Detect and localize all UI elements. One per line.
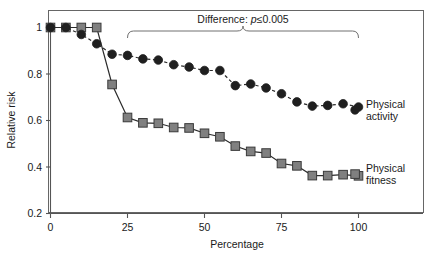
legend-activity-line2: activity: [366, 110, 399, 122]
activity-data-point: [92, 39, 101, 48]
chart-canvas: 0.2 0.4 0.6 0.8 1 0 25 50 75 100 Percent…: [0, 0, 438, 265]
x-tick-label-4: 100: [350, 221, 368, 233]
fitness-data-point: [339, 170, 348, 179]
fitness-data-point: [123, 113, 132, 122]
activity-data-point: [108, 50, 117, 59]
difference-annotation: Difference: p≤0.005: [197, 13, 289, 25]
legend-square-icon: [351, 170, 360, 179]
activity-data-point: [323, 101, 332, 110]
y-tick-label-1: 0.4: [27, 161, 42, 173]
legend-activity-line1: Physical: [366, 98, 405, 110]
x-axis-ticks: [51, 214, 359, 219]
fitness-data-point: [108, 80, 117, 89]
activity-data-point: [246, 80, 255, 89]
fitness-data-point: [293, 162, 302, 171]
fitness-data-point: [169, 123, 178, 132]
legend-fitness-line1: Physical: [366, 162, 405, 174]
fitness-data-point: [262, 149, 271, 158]
difference-bracket-icon: [128, 26, 359, 38]
activity-data-point: [185, 63, 194, 72]
x-axis-title: Percentage: [210, 238, 264, 250]
x-tick-label-1: 25: [122, 221, 134, 233]
fitness-data-point: [231, 142, 240, 151]
activity-data-point: [216, 66, 225, 75]
fitness-data-point: [308, 171, 317, 180]
activity-data-point: [277, 89, 286, 98]
legend-physical-fitness: Physical fitness: [351, 162, 405, 186]
fitness-data-point: [323, 171, 332, 180]
x-tick-label-3: 75: [276, 221, 288, 233]
fitness-data-point: [92, 23, 101, 32]
activity-markers: [46, 23, 363, 111]
legend-physical-activity: Physical activity: [351, 98, 405, 122]
activity-data-point: [262, 84, 271, 93]
fitness-data-point: [154, 119, 163, 128]
fitness-data-point: [139, 119, 148, 128]
y-tick-label-4: 1: [36, 21, 42, 33]
activity-data-point: [339, 99, 348, 108]
y-axis-tick-labels: 0.2 0.4 0.6 0.8 1: [27, 21, 42, 219]
x-tick-label-0: 0: [48, 221, 54, 233]
activity-data-point: [231, 81, 240, 90]
activity-data-point: [46, 23, 55, 32]
activity-data-point: [169, 60, 178, 69]
activity-data-point: [139, 55, 148, 64]
legend-fitness-line2: fitness: [366, 174, 396, 186]
x-axis-tick-labels: 0 25 50 75 100: [48, 221, 368, 233]
fitness-data-point: [277, 159, 286, 168]
activity-data-point: [154, 56, 163, 65]
fitness-data-point: [200, 129, 209, 138]
fitness-data-point: [246, 147, 255, 156]
activity-data-point: [77, 30, 86, 39]
y-tick-label-0: 0.2: [27, 207, 42, 219]
y-tick-label-3: 0.8: [27, 68, 42, 80]
y-axis-title: Relative risk: [5, 91, 17, 149]
fitness-data-point: [185, 124, 194, 133]
fitness-data-point: [216, 132, 225, 141]
y-tick-label-2: 0.6: [27, 114, 42, 126]
chart-figure: 0.2 0.4 0.6 0.8 1 0 25 50 75 100 Percent…: [0, 0, 438, 265]
activity-data-point: [293, 98, 302, 107]
activity-data-point: [62, 23, 71, 32]
activity-data-point: [308, 102, 317, 111]
activity-data-point: [200, 66, 209, 75]
series-physical-activity: [46, 23, 363, 111]
activity-data-point: [123, 51, 132, 60]
x-tick-label-2: 50: [199, 221, 211, 233]
legend-circle-icon: [351, 106, 359, 114]
